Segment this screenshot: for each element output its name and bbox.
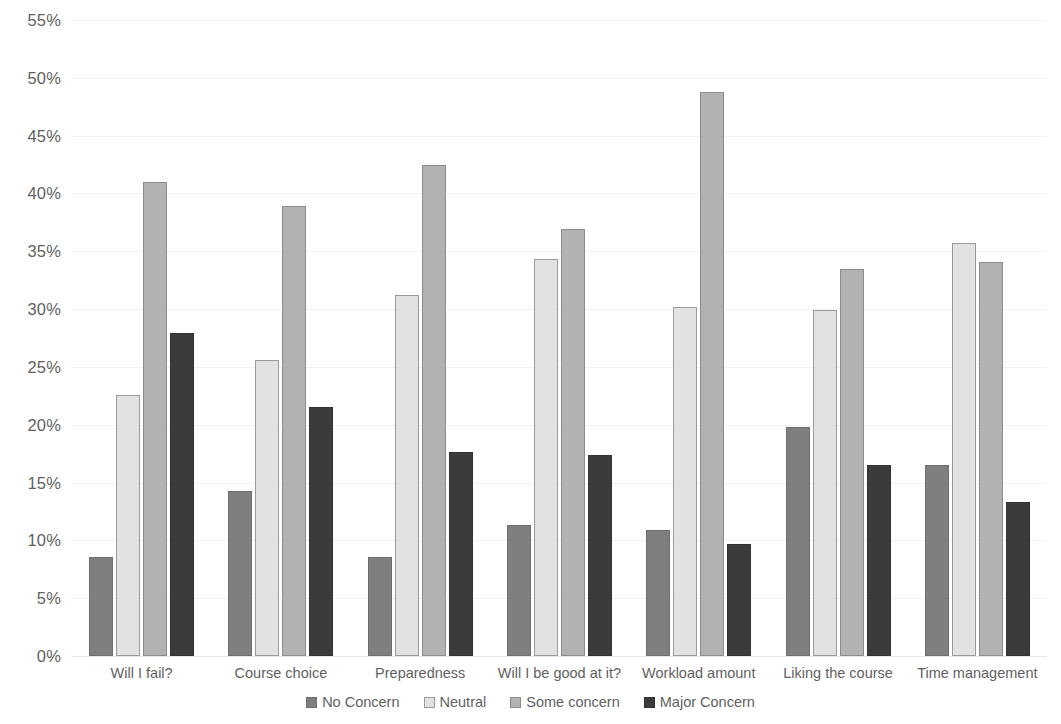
gridline (72, 656, 1047, 657)
bar[interactable] (534, 259, 558, 656)
legend-item[interactable]: Some concern (510, 694, 620, 710)
bar[interactable] (170, 333, 194, 656)
y-axis-tick-label: 35% (27, 242, 61, 261)
y-axis-tick-label: 40% (27, 184, 61, 203)
bar-group (72, 20, 211, 656)
bar-group-bars (768, 20, 907, 656)
bar-group (768, 20, 907, 656)
y-axis: 0%5%10%15%20%25%30%35%40%45%50%55% (0, 0, 72, 676)
bar[interactable] (143, 182, 167, 656)
legend-item[interactable]: No Concern (306, 694, 399, 710)
y-axis-tick-label: 10% (27, 531, 61, 550)
x-axis-tick-label: Workload amount (629, 660, 768, 690)
bar[interactable] (309, 407, 333, 656)
bar[interactable] (255, 360, 279, 656)
y-axis-tick-label: 55% (27, 11, 61, 30)
y-axis-tick-label: 0% (37, 647, 61, 666)
bar[interactable] (561, 229, 585, 656)
bar[interactable] (507, 525, 531, 656)
bar[interactable] (952, 243, 976, 656)
y-axis-tick-label: 45% (27, 126, 61, 145)
bar-group (490, 20, 629, 656)
bar[interactable] (116, 395, 140, 656)
bar[interactable] (867, 465, 891, 656)
bar[interactable] (727, 544, 751, 656)
bar-group-bars (351, 20, 490, 656)
bar[interactable] (368, 557, 392, 656)
plot-area (72, 20, 1047, 656)
bar-group-bars (490, 20, 629, 656)
legend-swatch-icon (644, 697, 655, 708)
bar[interactable] (89, 557, 113, 656)
bar[interactable] (449, 452, 473, 656)
bar[interactable] (786, 427, 810, 656)
bar-group-bars (908, 20, 1047, 656)
bar[interactable] (979, 262, 1003, 656)
legend-swatch-icon (424, 697, 435, 708)
bar-group-bars (72, 20, 211, 656)
x-axis-tick-label: Will I fail? (72, 660, 211, 690)
x-axis-tick-label: Preparedness (351, 660, 490, 690)
bar-group (908, 20, 1047, 656)
y-axis-tick-label: 50% (27, 68, 61, 87)
x-axis-tick-label: Time management (908, 660, 1047, 690)
x-axis-category-labels: Will I fail?Course choicePreparednessWil… (72, 660, 1047, 690)
bar[interactable] (840, 269, 864, 656)
x-axis-tick-label: Course choice (211, 660, 350, 690)
y-axis-tick-label: 25% (27, 357, 61, 376)
legend-item-label: Some concern (526, 694, 620, 710)
bar-chart: 0%5%10%15%20%25%30%35%40%45%50%55% Will … (0, 0, 1061, 724)
bar[interactable] (646, 530, 670, 656)
y-axis-tick-label: 5% (37, 589, 61, 608)
legend-item-label: Neutral (440, 694, 487, 710)
legend-item-label: Major Concern (660, 694, 755, 710)
chart-legend: No ConcernNeutralSome concernMajor Conce… (0, 694, 1061, 710)
bar[interactable] (282, 206, 306, 656)
bar[interactable] (395, 295, 419, 656)
bar[interactable] (700, 92, 724, 656)
bar-group-bars (211, 20, 350, 656)
legend-swatch-icon (510, 697, 521, 708)
x-axis-tick-label: Will I be good at it? (490, 660, 629, 690)
bar-group (351, 20, 490, 656)
bar-group-bars (629, 20, 768, 656)
bar-group (629, 20, 768, 656)
y-axis-tick-label: 30% (27, 300, 61, 319)
legend-swatch-icon (306, 697, 317, 708)
legend-item-label: No Concern (322, 694, 399, 710)
y-axis-tick-label: 20% (27, 415, 61, 434)
bar[interactable] (228, 491, 252, 656)
bar-groups (72, 20, 1047, 656)
bar[interactable] (925, 465, 949, 656)
bar[interactable] (1006, 502, 1030, 656)
legend-item[interactable]: Major Concern (644, 694, 755, 710)
bar[interactable] (422, 165, 446, 656)
x-axis-tick-label: Liking the course (768, 660, 907, 690)
y-axis-tick-label: 15% (27, 473, 61, 492)
bar[interactable] (588, 455, 612, 656)
legend-item[interactable]: Neutral (424, 694, 487, 710)
bar[interactable] (673, 307, 697, 656)
bar[interactable] (813, 310, 837, 656)
bar-group (211, 20, 350, 656)
